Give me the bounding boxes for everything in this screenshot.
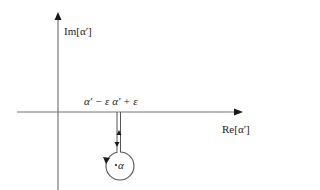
- contour-down-arrow-icon: [115, 142, 120, 147]
- real-axis-arrowhead-icon: [234, 109, 243, 116]
- pole-point: [115, 164, 117, 166]
- imaginary-axis-arrowhead-icon: [55, 12, 62, 20]
- branch-cut-labels: α′ − ε α′ + ε: [84, 96, 138, 107]
- circle-direction-arrow-icon: [103, 157, 110, 164]
- real-axis-label: Re[α′]: [222, 124, 250, 135]
- pole-label: α: [118, 160, 124, 171]
- imaginary-axis-label: Im[α′]: [64, 26, 92, 37]
